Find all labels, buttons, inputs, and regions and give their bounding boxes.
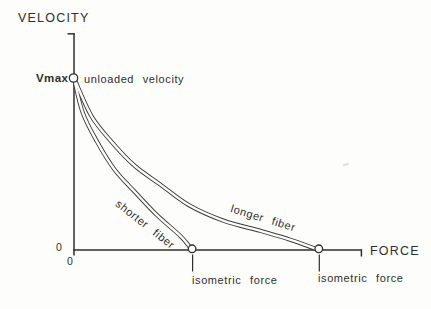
longer-isometric-point	[315, 245, 323, 253]
vmax-label: Vmax	[36, 73, 68, 85]
vmax-point	[69, 74, 77, 82]
x-axis-title: FORCE	[370, 245, 420, 258]
x-axis-zero-label: 0	[67, 256, 73, 267]
shorter-isometric-label: isometric force	[192, 275, 278, 286]
unloaded-velocity-label: unloaded velocity	[84, 74, 184, 85]
longer-isometric-label: isometric force	[318, 273, 404, 284]
force-velocity-figure: VELOCITY Vmax unloaded velocity 0 0 shor…	[0, 0, 431, 309]
y-axis-zero-label: 0	[56, 242, 62, 253]
shorter-isometric-point	[188, 245, 196, 253]
plot-canvas	[0, 0, 431, 309]
scan-artifact	[342, 162, 349, 167]
y-axis-title: VELOCITY	[18, 12, 89, 25]
